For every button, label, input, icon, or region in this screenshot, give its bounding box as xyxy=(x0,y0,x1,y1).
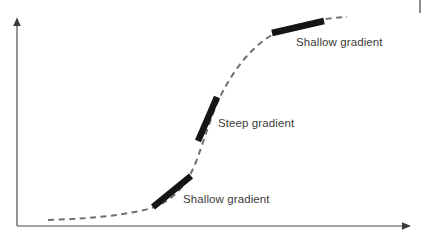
tangent-segment-steep xyxy=(198,97,217,141)
label-shallow-gradient-upper: Shallow gradient xyxy=(296,36,383,49)
x-axis-arrowhead xyxy=(402,222,411,230)
scan-edge-mark xyxy=(419,0,421,13)
y-axis-arrowhead xyxy=(13,18,21,27)
label-shallow-gradient-lower: Shallow gradient xyxy=(183,193,270,206)
gradient-diagram: Shallow gradient Steep gradient Shallow … xyxy=(0,0,426,236)
tangent-segment-shallow-upper xyxy=(272,21,324,33)
label-steep-gradient: Steep gradient xyxy=(218,117,294,130)
